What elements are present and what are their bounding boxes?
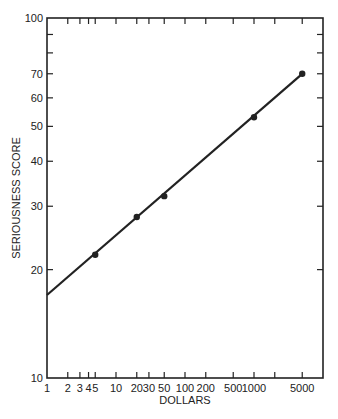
y-tick-label: 70 [31, 68, 43, 80]
data-point [134, 214, 140, 220]
x-tick-label: 20 [131, 382, 143, 394]
y-tick-label: 100 [25, 12, 43, 24]
y-tick-label: 30 [31, 200, 43, 212]
x-tick-label: 500 [224, 382, 242, 394]
chart: 123451020305010020050010005000 102030405… [0, 0, 338, 419]
x-tick-label: 3 [77, 382, 83, 394]
x-tick-label: 200 [197, 382, 215, 394]
data-point [92, 252, 98, 258]
x-tick-label: 100 [176, 382, 194, 394]
x-tick-label: 2 [65, 382, 71, 394]
y-tick-label: 50 [31, 120, 43, 132]
x-tick-label: 4 [85, 382, 91, 394]
data-point [161, 193, 167, 199]
x-axis-title: DOLLARS [159, 394, 210, 406]
x-tick-label: 50 [158, 382, 170, 394]
x-tick-label: 5 [92, 382, 98, 394]
x-tick-label: 1000 [242, 382, 266, 394]
data-point [251, 114, 257, 120]
y-tick-label: 10 [31, 372, 43, 384]
y-tick-label: 40 [31, 155, 43, 167]
x-tick-label: 1 [44, 382, 50, 394]
y-tick-label: 60 [31, 92, 43, 104]
x-tick-label: 5000 [290, 382, 314, 394]
fitted-line [47, 74, 302, 295]
data-point [299, 71, 305, 77]
data-series [47, 71, 305, 295]
y-axis-ticks: 10203040506070100 [25, 12, 323, 384]
plot-frame [47, 18, 323, 378]
x-tick-label: 30 [143, 382, 155, 394]
x-axis-ticks: 123451020305010020050010005000 [44, 18, 315, 394]
y-axis-title: SERIOUSNESS SCORE [10, 137, 22, 259]
x-tick-label: 10 [110, 382, 122, 394]
plot-border [47, 18, 323, 378]
y-tick-label: 20 [31, 264, 43, 276]
